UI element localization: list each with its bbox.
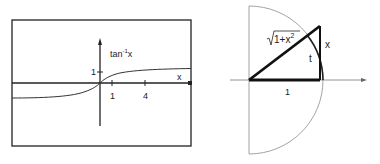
horizontal-axis-arrow-icon	[361, 78, 367, 82]
x-axis-end-marker	[188, 81, 192, 85]
hypotenuse-label: 1+x2	[267, 31, 300, 45]
diagram-canvas: tan-1x 1 1 4 x 1+x2 x t 1	[0, 0, 380, 164]
x-tick-label-1: 1	[110, 91, 115, 101]
opposite-label: x	[325, 39, 330, 50]
y-axis-arrow-icon	[98, 38, 102, 45]
angle-label: t	[309, 53, 312, 64]
hypotenuse-label-text: 1+x2	[274, 32, 294, 45]
function-label: tan-1x	[110, 48, 133, 59]
x-tick-label-4: 4	[143, 91, 148, 101]
x-axis-label: x	[177, 72, 182, 82]
unit-circle-triangle: 1+x2 x t 1	[230, 6, 367, 154]
arctan-graph: tan-1x 1 1 4 x	[12, 20, 192, 146]
adjacent-label: 1	[285, 87, 290, 97]
y-tick-label: 1	[91, 67, 96, 77]
